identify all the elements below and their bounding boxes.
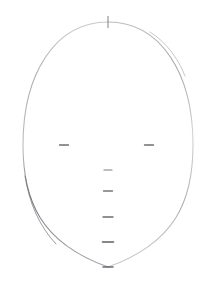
face-construction-diagram	[0, 0, 211, 294]
canvas-background	[0, 0, 211, 294]
drawing-canvas	[0, 0, 211, 294]
